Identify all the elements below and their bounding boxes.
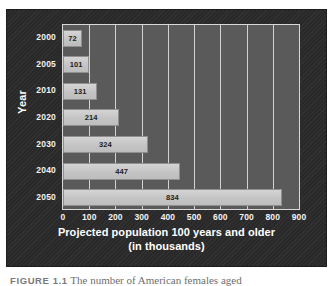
bar-value-label: 131: [74, 87, 87, 96]
x-axis-tick-label: 0: [61, 212, 66, 222]
figure-caption-text: The number of American females aged: [70, 274, 241, 286]
bar[interactable]: 101: [63, 56, 89, 73]
x-axis-tick-label: 700: [239, 212, 253, 222]
bar[interactable]: 324: [63, 136, 148, 153]
y-axis-tick-label: 2030: [36, 130, 56, 157]
bar-value-label: 324: [99, 140, 112, 149]
x-axis-title: Projected population 100 years and older…: [15, 226, 318, 253]
bar[interactable]: 72: [63, 30, 82, 47]
bar-value-label: 72: [68, 34, 77, 43]
bar[interactable]: 214: [63, 109, 119, 126]
bar-row: 72: [63, 25, 300, 52]
y-axis-tick-label: 2005: [36, 51, 56, 78]
bar-row: 214: [63, 105, 300, 132]
x-axis-tick-label: 400: [161, 212, 175, 222]
bar-row: 131: [63, 78, 300, 105]
x-axis-tick-label: 800: [266, 212, 280, 222]
x-axis-tick-label: 500: [187, 212, 201, 222]
y-axis-tick-label: 2050: [36, 183, 56, 210]
y-axis-tick-label: 2020: [36, 104, 56, 131]
bar[interactable]: 447: [63, 163, 180, 180]
x-axis-title-line-2: (in thousands): [15, 240, 318, 254]
y-axis-tick-labels: 2000200520102020203020402050: [7, 24, 59, 210]
bar-value-label: 447: [115, 167, 128, 176]
bar-value-label: 214: [85, 113, 98, 122]
y-axis-tick-label: 2010: [36, 77, 56, 104]
x-axis-tick-labels: 0100200300400500600700800900: [62, 212, 300, 225]
x-axis-tick-label: 100: [82, 212, 96, 222]
chart-panel: Year 2000200520102020203020402050 721011…: [7, 10, 326, 266]
bar[interactable]: 834: [63, 189, 282, 206]
bar-row: 324: [63, 131, 300, 158]
x-axis-title-line-1: Projected population 100 years and older: [58, 226, 275, 238]
bar-row: 834: [63, 184, 300, 210]
bar-value-label: 834: [166, 193, 179, 202]
x-axis-tick-label: 600: [213, 212, 227, 222]
plot-area: 72101131214324447834: [62, 24, 300, 210]
bar-value-label: 101: [70, 60, 83, 69]
figure-caption-label: FIGURE 1.1: [10, 275, 68, 286]
y-axis-tick-label: 2040: [36, 157, 56, 184]
figure-caption: FIGURE 1.1 The number of American female…: [10, 274, 323, 286]
bar[interactable]: 131: [63, 83, 97, 100]
x-axis-tick-label: 900: [292, 212, 306, 222]
x-axis-tick-label: 300: [134, 212, 148, 222]
x-axis-tick-label: 200: [108, 212, 122, 222]
bar-row: 101: [63, 52, 300, 79]
bar-row: 447: [63, 158, 300, 185]
y-axis-tick-label: 2000: [36, 24, 56, 51]
